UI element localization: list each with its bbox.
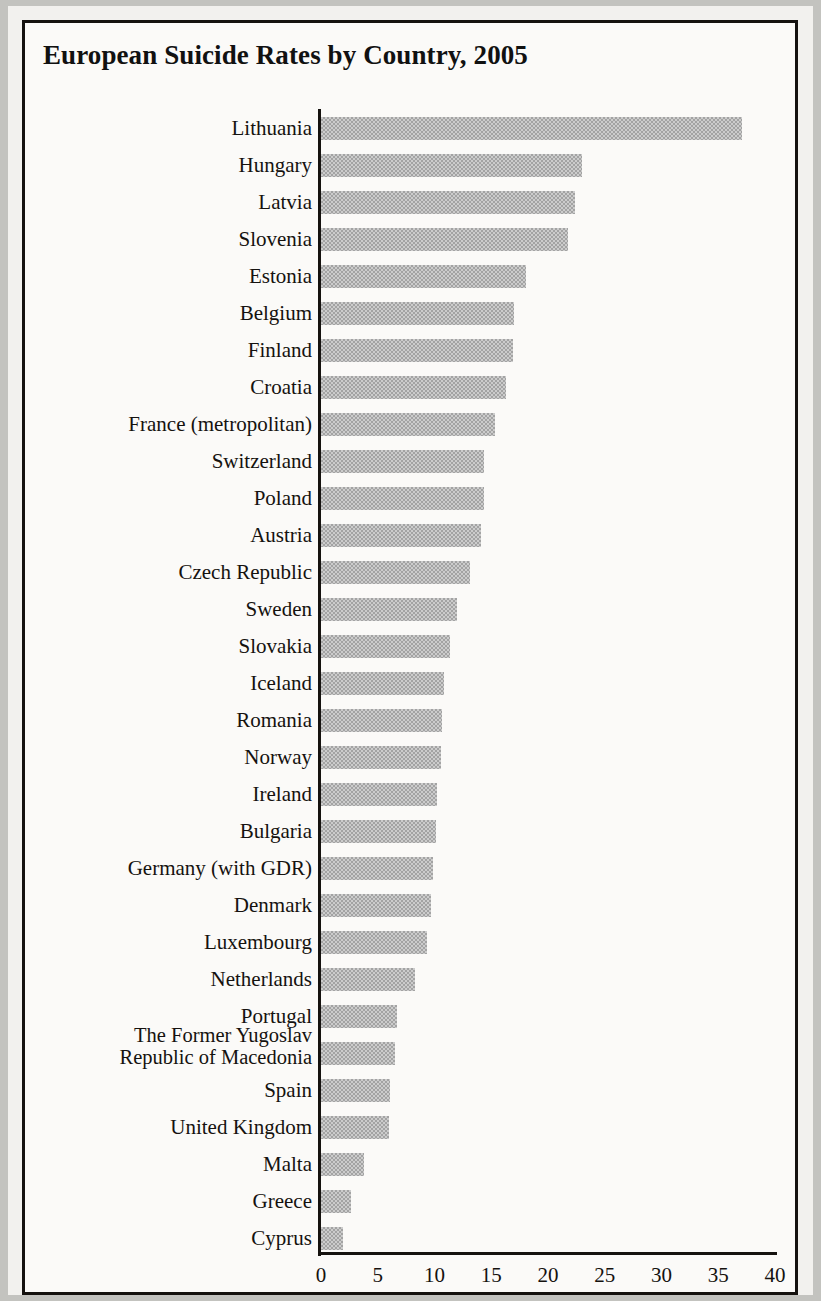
x-tick-label: 30 bbox=[639, 1263, 685, 1288]
bar bbox=[321, 154, 582, 177]
bar bbox=[321, 413, 495, 436]
bar-category-label: Austria bbox=[57, 524, 312, 547]
bar bbox=[321, 783, 437, 806]
bar bbox=[321, 709, 442, 732]
bar-row: Slovakia bbox=[25, 628, 795, 665]
bar-row: Slovenia bbox=[25, 221, 795, 258]
bar bbox=[321, 1079, 390, 1102]
bar-track bbox=[321, 1116, 389, 1139]
bar-row: Spain bbox=[25, 1072, 795, 1109]
bar-category-label: Ireland bbox=[57, 783, 312, 806]
bar-track bbox=[321, 302, 514, 325]
bar-category-label: Sweden bbox=[57, 598, 312, 621]
bar-category-label: France (metropolitan) bbox=[57, 413, 312, 436]
bar-category-label: Latvia bbox=[57, 191, 312, 214]
bar-row: Romania bbox=[25, 702, 795, 739]
bar-row: Switzerland bbox=[25, 443, 795, 480]
bar-category-label: Luxembourg bbox=[57, 931, 312, 954]
bar-category-label: Netherlands bbox=[57, 968, 312, 991]
x-tick-label: 40 bbox=[752, 1263, 798, 1288]
bar bbox=[321, 746, 441, 769]
x-tick-label: 0 bbox=[298, 1263, 344, 1288]
bar-row: Latvia bbox=[25, 184, 795, 221]
bar-category-label: Estonia bbox=[57, 265, 312, 288]
bar bbox=[321, 228, 568, 251]
bar-track bbox=[321, 857, 433, 880]
bar-category-label: Iceland bbox=[57, 672, 312, 695]
bar-track bbox=[321, 1042, 395, 1065]
bar-row: Cyprus bbox=[25, 1220, 795, 1257]
bar-row: Hungary bbox=[25, 147, 795, 184]
bar-row: Sweden bbox=[25, 591, 795, 628]
bar-row: Lithuania bbox=[25, 110, 795, 147]
x-axis-ticks: 0510152025303540 bbox=[25, 1263, 795, 1293]
bar-category-label: Spain bbox=[57, 1079, 312, 1102]
bar-track bbox=[321, 191, 575, 214]
bar-category-label: Germany (with GDR) bbox=[57, 857, 312, 880]
bar bbox=[321, 857, 433, 880]
bar-track bbox=[321, 265, 526, 288]
page-title: European Suicide Rates by Country, 2005 bbox=[43, 40, 528, 71]
bar bbox=[321, 894, 431, 917]
bar-track bbox=[321, 524, 481, 547]
bar-track bbox=[321, 154, 582, 177]
bar-row: Belgium bbox=[25, 295, 795, 332]
bar-row: Bulgaria bbox=[25, 813, 795, 850]
bar bbox=[321, 561, 470, 584]
bar-track bbox=[321, 1227, 343, 1250]
x-tick-label: 15 bbox=[468, 1263, 514, 1288]
plot-area: LithuaniaHungaryLatviaSloveniaEstoniaBel… bbox=[25, 85, 795, 1225]
bar-track bbox=[321, 450, 484, 473]
bar-row: Austria bbox=[25, 517, 795, 554]
bar-row: Croatia bbox=[25, 369, 795, 406]
bar-track bbox=[321, 228, 568, 251]
bar bbox=[321, 1227, 343, 1250]
bar bbox=[321, 117, 742, 140]
x-tick-label: 10 bbox=[412, 1263, 458, 1288]
bar-row: Iceland bbox=[25, 665, 795, 702]
bar-row: Denmark bbox=[25, 887, 795, 924]
bar-track bbox=[321, 561, 470, 584]
bar-category-label: Denmark bbox=[57, 894, 312, 917]
bar bbox=[321, 635, 450, 658]
bar-category-label: Greece bbox=[57, 1190, 312, 1213]
bar-row: Poland bbox=[25, 480, 795, 517]
bar bbox=[321, 487, 484, 510]
bar-category-label: Lithuania bbox=[57, 117, 312, 140]
bar-track bbox=[321, 413, 495, 436]
bar-category-label: Cyprus bbox=[57, 1227, 312, 1250]
bar-track bbox=[321, 1153, 364, 1176]
bar-track bbox=[321, 376, 506, 399]
page-background: European Suicide Rates by Country, 2005 … bbox=[0, 0, 821, 1301]
bar bbox=[321, 1042, 395, 1065]
bar-row: Germany (with GDR) bbox=[25, 850, 795, 887]
bar bbox=[321, 302, 514, 325]
x-tick-label: 35 bbox=[695, 1263, 741, 1288]
bar-track bbox=[321, 931, 427, 954]
bar bbox=[321, 376, 506, 399]
bar-category-label: United Kingdom bbox=[57, 1116, 312, 1139]
bar-track bbox=[321, 968, 415, 991]
bar-row: United Kingdom bbox=[25, 1109, 795, 1146]
bar bbox=[321, 820, 436, 843]
chart-frame: European Suicide Rates by Country, 2005 … bbox=[22, 20, 798, 1295]
bar-row: Luxembourg bbox=[25, 924, 795, 961]
bar bbox=[321, 265, 526, 288]
bar-category-label: Slovenia bbox=[57, 228, 312, 251]
bar-row: Norway bbox=[25, 739, 795, 776]
x-tick-label: 5 bbox=[355, 1263, 401, 1288]
bar bbox=[321, 191, 575, 214]
bar-row: Ireland bbox=[25, 776, 795, 813]
bar bbox=[321, 450, 484, 473]
bar-row: Finland bbox=[25, 332, 795, 369]
bar-track bbox=[321, 1005, 397, 1028]
bar-track bbox=[321, 1079, 390, 1102]
bar-track bbox=[321, 635, 450, 658]
bar-track bbox=[321, 339, 513, 362]
bar-row: Estonia bbox=[25, 258, 795, 295]
bar-category-label: Switzerland bbox=[57, 450, 312, 473]
bar-track bbox=[321, 894, 431, 917]
bar-row: France (metropolitan) bbox=[25, 406, 795, 443]
bar-track bbox=[321, 783, 437, 806]
bar-category-label: Belgium bbox=[57, 302, 312, 325]
